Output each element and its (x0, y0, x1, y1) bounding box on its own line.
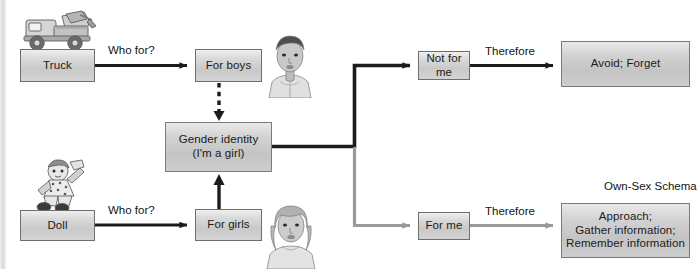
node-avoid-forget-label: Avoid; Forget (562, 57, 689, 71)
toy-dump-truck-illustration (16, 6, 102, 52)
edge-label-who-for-top: Who for? (108, 44, 155, 56)
connector-branch-to-for-me (355, 147, 411, 226)
node-doll-label: Doll (21, 219, 94, 233)
own-sex-schema-caption: Own-Sex Schema (604, 180, 697, 192)
rag-doll-illustration (22, 158, 94, 214)
node-for-boys-label: For boys (196, 59, 261, 73)
page-edge-shading (0, 0, 7, 269)
node-truck-label: Truck (21, 59, 94, 73)
node-for-boys[interactable]: For boys (195, 49, 262, 82)
node-not-for-me[interactable]: Not for me (418, 51, 470, 80)
connector-for-boys-to-gender-identity (214, 83, 225, 121)
node-own-sex-schema-line2: Gather information; (575, 224, 675, 236)
node-own-sex-schema-line3: Remember information (566, 237, 685, 249)
node-doll[interactable]: Doll (20, 210, 95, 241)
edge-label-therefore-top: Therefore (485, 45, 535, 57)
node-not-for-me-label: Not for me (419, 52, 469, 79)
node-avoid-forget[interactable]: Avoid; Forget (561, 41, 690, 87)
connector-branch-to-not-for-me (355, 66, 411, 149)
edge-label-who-for-bottom: Who for? (108, 204, 155, 216)
node-for-girls-label: For girls (196, 218, 261, 232)
node-truck[interactable]: Truck (20, 49, 95, 82)
girl-portrait-illustration (264, 196, 318, 269)
node-for-me-label: For me (419, 219, 469, 233)
connector-for-girls-to-gender-identity (214, 174, 225, 209)
node-gender-identity[interactable]: Gender identity (I'm a girl) (165, 122, 272, 172)
gender-schema-diagram: Truck For boys Gender identity (I'm a gi… (0, 0, 698, 269)
edge-label-therefore-bottom: Therefore (485, 205, 535, 217)
node-gender-identity-line1: Gender identity (179, 133, 259, 145)
node-for-girls[interactable]: For girls (195, 209, 262, 241)
node-gender-identity-line2: (I'm a girl) (193, 147, 245, 159)
node-own-sex-schema-line1: Approach; (599, 210, 652, 222)
node-own-sex-schema[interactable]: Approach; Gather information; Remember i… (561, 203, 690, 258)
node-for-me[interactable]: For me (418, 212, 470, 240)
boy-portrait-illustration (264, 26, 316, 98)
